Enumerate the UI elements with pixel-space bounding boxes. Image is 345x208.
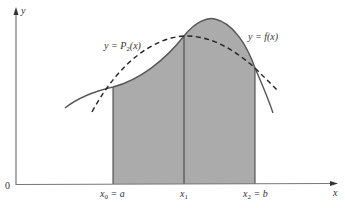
x-axis xyxy=(16,184,331,185)
simpsons-rule-diagram: y x 0 y = P2(x) y = f(x) x0 = a x1 x2 = … xyxy=(0,0,345,208)
f-curve-label: y = f(x) xyxy=(247,31,279,43)
tick-label-x0: x0 = a xyxy=(99,188,125,201)
tick-label-x2: x2 = b xyxy=(242,188,268,201)
p2-curve-label: y = P2(x) xyxy=(103,40,142,53)
origin-label: 0 xyxy=(5,180,10,191)
x-axis-label: x xyxy=(332,187,338,198)
y-axis-arrow-icon xyxy=(14,7,19,15)
y-axis-label: y xyxy=(20,5,26,16)
tick-label-x1: x1 xyxy=(179,188,188,201)
x-axis-arrow-icon xyxy=(330,181,338,186)
